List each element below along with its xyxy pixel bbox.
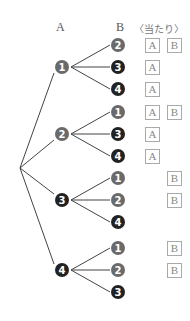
svg-text:2: 2 (115, 40, 122, 51)
node-b-1: 1 (111, 241, 125, 255)
node-a-3: 3 (55, 193, 69, 207)
result-box-b: B (167, 105, 182, 120)
svg-text:2: 2 (115, 265, 122, 276)
svg-text:2: 2 (59, 129, 66, 140)
result-box-a: A (145, 38, 160, 53)
svg-text:4: 4 (115, 217, 122, 228)
result-box-a: A (145, 82, 160, 97)
node-b-1: 1 (111, 105, 125, 119)
branch-line (71, 200, 110, 222)
branch-line (71, 178, 110, 200)
svg-text:1: 1 (59, 62, 66, 73)
node-b-4: 4 (111, 149, 125, 163)
node-b-4: 4 (111, 82, 125, 96)
result-box-b: B (167, 171, 182, 186)
result-box-b: B (167, 241, 182, 256)
svg-text:3: 3 (115, 62, 122, 73)
result-box-a: A (145, 127, 160, 142)
result-box-b: B (167, 263, 182, 278)
node-b-1: 1 (111, 171, 125, 185)
svg-text:4: 4 (115, 151, 122, 162)
svg-text:3: 3 (59, 195, 66, 206)
result-box-a: A (145, 149, 160, 164)
branch-line (71, 112, 110, 134)
branch-line (71, 134, 110, 156)
node-b-3: 3 (111, 285, 125, 299)
result-box-a: A (145, 60, 160, 75)
svg-text:3: 3 (115, 129, 122, 140)
branch-line (71, 270, 110, 292)
branch-line (71, 67, 110, 89)
svg-text:4: 4 (59, 265, 66, 276)
node-b-3: 3 (111, 127, 125, 141)
branch-line (71, 248, 110, 270)
svg-text:1: 1 (115, 107, 122, 118)
branch-line (20, 168, 54, 264)
svg-text:4: 4 (115, 84, 122, 95)
node-b-2: 2 (111, 263, 125, 277)
branch-line (71, 45, 110, 67)
node-a-4: 4 (55, 263, 69, 277)
svg-text:1: 1 (115, 243, 122, 254)
node-a-2: 2 (55, 127, 69, 141)
node-b-3: 3 (111, 60, 125, 74)
svg-text:3: 3 (115, 287, 122, 298)
tree-diagram: 2341134212431234 (0, 0, 190, 321)
node-b-4: 4 (111, 215, 125, 229)
node-b-2: 2 (111, 38, 125, 52)
node-a-1: 1 (55, 60, 69, 74)
result-box-b: B (167, 193, 182, 208)
svg-text:2: 2 (115, 195, 122, 206)
result-box-b: B (167, 38, 182, 53)
node-b-2: 2 (111, 193, 125, 207)
result-box-a: A (145, 105, 160, 120)
svg-text:1: 1 (115, 173, 122, 184)
